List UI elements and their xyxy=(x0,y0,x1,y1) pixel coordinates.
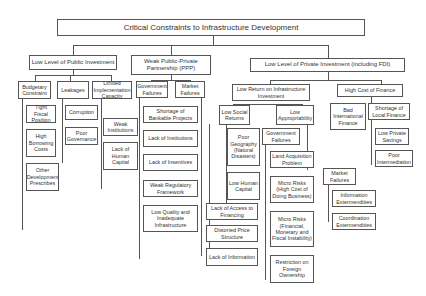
ppp-market-failures-node: Market Failures xyxy=(175,81,205,98)
poor-governance-node: Poor Governance xyxy=(65,127,98,145)
connector xyxy=(139,98,140,259)
tight-fiscal-node: Tight Fiscal Position xyxy=(26,105,56,123)
corruption-node: Corruption xyxy=(65,105,98,120)
budgetary-constraint-node: Budgetary Constraint xyxy=(18,81,51,99)
connector xyxy=(62,98,63,163)
connector xyxy=(328,71,329,80)
bad-international-finance-node: Bad International Finance xyxy=(330,103,366,130)
high-cost-finance-node: High Cost of Finance xyxy=(337,84,403,97)
shortage-local-finance-node: Shortage of Local Finance xyxy=(368,103,410,120)
connector xyxy=(73,45,328,46)
micro-risks-financial-node: Micro Risks (Financial, Monetary and Fis… xyxy=(270,211,314,247)
connector xyxy=(265,145,266,280)
foreign-ownership-node: Restriction on Foreign Ownership xyxy=(270,255,314,283)
connector xyxy=(270,80,381,81)
ppp-node: Weak Public-Private Partnership (PPP) xyxy=(131,55,211,75)
development-prescribes-node: Other Development Prescribes xyxy=(26,163,59,191)
public-investment-node: Low Level of Public Investment xyxy=(29,55,117,70)
weak-institutions-node: Weak Institutions xyxy=(103,118,138,136)
connector xyxy=(213,35,214,45)
connector xyxy=(35,75,111,76)
implementation-capacity-node: Limited Implementation Capacity xyxy=(92,81,132,99)
lack-incentives-node: Lack of Insentives xyxy=(143,154,198,171)
root-node: Critical Constraints to Infrastructure D… xyxy=(57,19,365,36)
low-social-returns-node: Low Social Returns xyxy=(219,105,250,125)
low-quality-infrastructure-node: Low Quality and Inadequate Infrastructur… xyxy=(143,205,198,232)
lack-information-node: Lack of Information xyxy=(206,248,258,266)
connector xyxy=(201,98,202,256)
coordination-extermendities-node: Coordination Extermendities xyxy=(332,213,376,230)
low-human-capital-node: Low Human Capital xyxy=(227,172,260,200)
micro-risks-business-node: Micro Risks (High Cost of Doing Business… xyxy=(270,176,314,203)
leakages-node: Leakages xyxy=(57,81,89,99)
poor-geography-node: Poor Geography (Natural Disasters) xyxy=(227,128,260,166)
low-private-savings-node: Low Private Savings xyxy=(375,128,409,145)
low-return-node: Low Return on Infrastructure Investment xyxy=(232,84,310,101)
poor-intermediation-node: Poor Intermediation xyxy=(375,150,413,167)
access-financing-node: Lack of Access to Financing xyxy=(206,203,258,220)
distorted-price-node: Distorted Price Structure xyxy=(206,225,258,242)
connector xyxy=(22,98,23,230)
app-market-failures-node: Market Failures xyxy=(323,168,356,185)
connector xyxy=(73,45,74,55)
ppp-government-failures-node: Government Failures xyxy=(136,81,168,98)
low-appropriability-node: Low Appropriability xyxy=(276,105,314,125)
connector xyxy=(101,98,102,189)
connector xyxy=(171,45,172,55)
information-extermendities-node: Information Extermendities xyxy=(332,190,376,207)
lack-human-capital-node: Lack of Human Capital xyxy=(103,142,138,170)
weak-regulatory-node: Weak Regulatory Framework xyxy=(143,180,198,197)
app-government-failures-node: Government Failures xyxy=(262,128,300,145)
constraints-tree-diagram: Critical Constraints to Infrastructure D… xyxy=(0,0,426,296)
bankable-projects-node: Shortage of Bankable Projects xyxy=(143,106,198,123)
private-investment-node: Low Level of Private Investment (includi… xyxy=(250,58,405,72)
land-acquisition-node: Land Acquisition Problem xyxy=(270,151,314,168)
connector xyxy=(328,45,329,58)
lack-institutions-node: Lack of Institutions xyxy=(143,130,198,147)
borrowing-costs-node: High Borrowing Costs xyxy=(26,129,56,157)
connector xyxy=(371,120,372,165)
connector xyxy=(328,182,329,222)
